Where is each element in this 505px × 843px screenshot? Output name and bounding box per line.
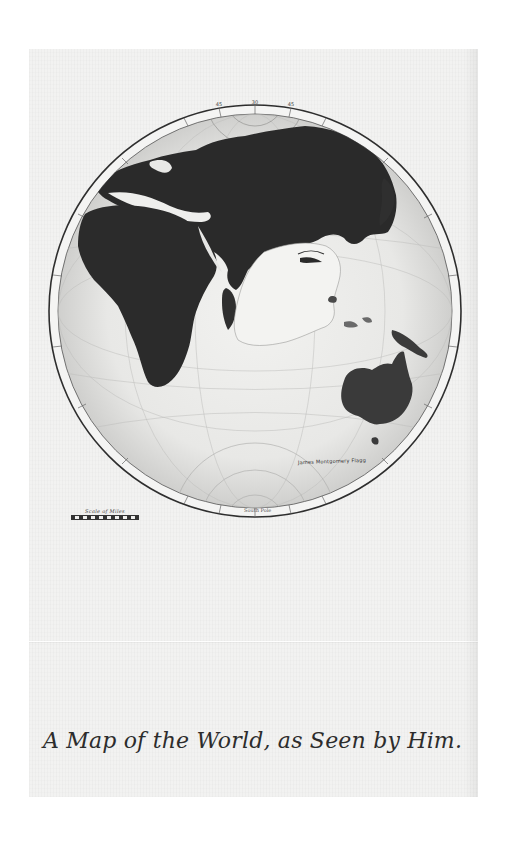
- map-title: A Map of the World, as Seen by Him.: [0, 728, 505, 753]
- globe-map: 45 30 45: [0, 0, 505, 843]
- svg-text:45: 45: [216, 101, 222, 107]
- scale-label: Scale of Miles: [71, 508, 139, 514]
- svg-text:30: 30: [252, 99, 258, 105]
- svg-text:45: 45: [288, 101, 294, 107]
- scale-of-miles: Scale of Miles: [71, 508, 139, 520]
- scale-bar: [71, 515, 139, 520]
- south-pole-label: South Pole: [244, 507, 271, 513]
